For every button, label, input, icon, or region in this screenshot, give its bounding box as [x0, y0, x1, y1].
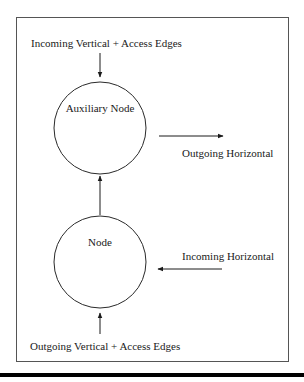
- diagram-canvas: Incoming Vertical + Access Edges Auxilia…: [0, 0, 304, 382]
- auxiliary-node-circle: [54, 82, 146, 174]
- incoming-vertical-label: Incoming Vertical + Access Edges: [31, 37, 182, 49]
- node-label: Node: [88, 236, 112, 248]
- bottom-rule: [0, 373, 304, 377]
- outgoing-horizontal-label: Outgoing Horizontal: [182, 147, 273, 159]
- outgoing-vertical-label: Outgoing Vertical + Access Edges: [30, 340, 180, 352]
- node-circle: [54, 216, 146, 308]
- incoming-horizontal-label: Incoming Horizontal: [182, 250, 274, 262]
- auxiliary-node-label: Auxiliary Node: [66, 102, 135, 114]
- diagram-frame: [17, 18, 289, 362]
